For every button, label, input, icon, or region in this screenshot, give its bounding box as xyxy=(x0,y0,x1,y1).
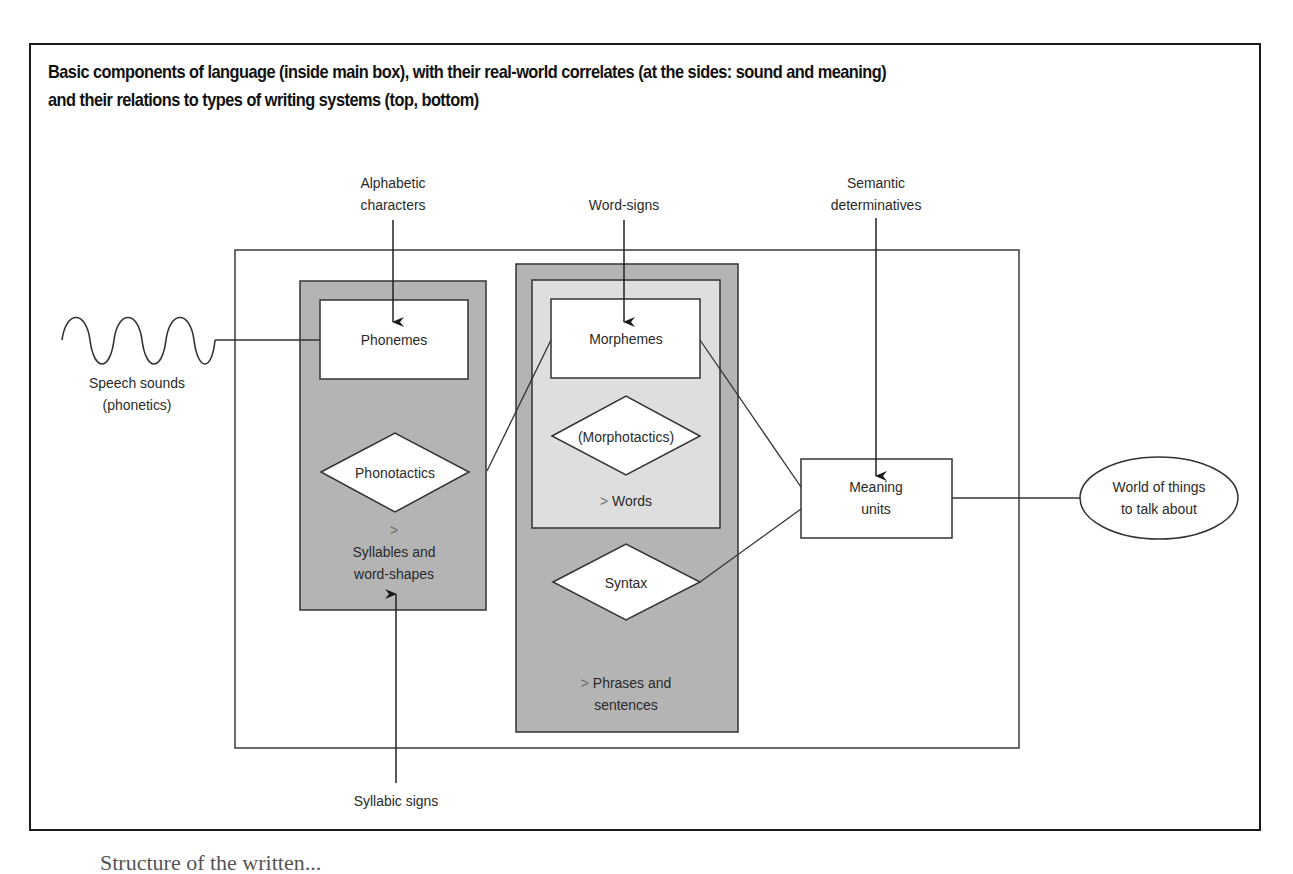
word-signs-label: Word-signs xyxy=(589,194,659,216)
speech-sounds-line-2: (phonetics) xyxy=(89,394,185,416)
syllabic-signs-label: Syllabic signs xyxy=(354,790,439,812)
phrases-arrow-glyph: > xyxy=(581,674,589,691)
figure-caption-clipped: Structure of the written... xyxy=(100,850,321,874)
meaning-units-label: Meaning units xyxy=(849,476,903,520)
words-text: Words xyxy=(612,492,652,509)
alphabetic-line-2: characters xyxy=(360,194,425,216)
alphabetic-line-1: Alphabetic xyxy=(360,172,425,194)
syllables-label: > Syllables and word-shapes xyxy=(353,519,436,585)
semantic-line-2: determinatives xyxy=(831,194,922,216)
speech-sounds-label: Speech sounds (phonetics) xyxy=(89,372,185,416)
meaning-units-line-2: units xyxy=(849,498,903,520)
phrases-line-2: sentences xyxy=(581,694,671,716)
alphabetic-characters-label: Alphabetic characters xyxy=(360,172,425,216)
words-label: > Words xyxy=(600,490,652,512)
phonotactics-label: Phonotactics xyxy=(355,462,435,484)
morphotactics-label: (Morphotactics) xyxy=(578,426,674,448)
syllables-line-2: word-shapes xyxy=(353,563,436,585)
morphemes-label: Morphemes xyxy=(589,328,663,350)
world-line-2: to talk about xyxy=(1113,498,1206,520)
meaning-units-line-1: Meaning xyxy=(849,476,903,498)
world-label: World of things to talk about xyxy=(1113,476,1206,520)
phrases-label: > Phrases and sentences xyxy=(581,672,671,716)
words-arrow-glyph: > xyxy=(600,492,608,509)
syllables-line-1: Syllables and xyxy=(353,541,436,563)
phonemes-label: Phonemes xyxy=(361,329,428,351)
semantic-line-1: Semantic xyxy=(831,172,922,194)
syllables-arrow-glyph: > xyxy=(353,519,436,541)
phrases-line-1: Phrases and xyxy=(593,674,671,691)
speech-sounds-line-1: Speech sounds xyxy=(89,372,185,394)
syntax-label: Syntax xyxy=(605,572,648,594)
semantic-determinatives-label: Semantic determinatives xyxy=(831,172,922,216)
world-line-1: World of things xyxy=(1113,476,1206,498)
sound-wave-icon xyxy=(62,318,215,365)
